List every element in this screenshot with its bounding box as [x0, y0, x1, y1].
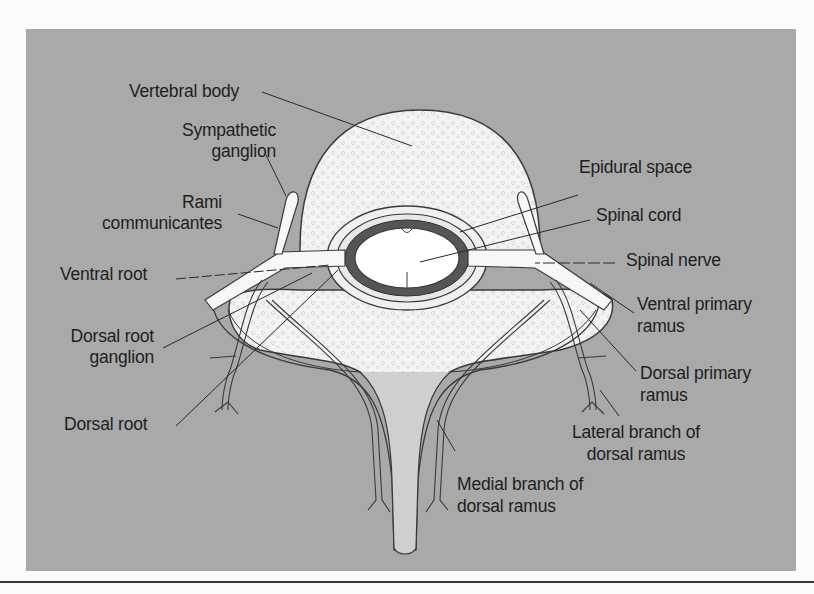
label-vertebral-body: Vertebral body	[129, 81, 239, 102]
label-medial-branch-line2: dorsal ramus	[457, 496, 556, 517]
label-sympathetic-ganglion-line1: Sympathetic	[136, 120, 276, 141]
label-ventral-primary-ramus-line2: ramus	[637, 316, 685, 337]
label-dorsal-primary-ramus-line1: Dorsal primary	[640, 363, 751, 384]
spinal-canal	[327, 206, 487, 310]
label-drg-line1: Dorsal root	[40, 326, 154, 347]
label-lateral-branch-line1: Lateral branch of	[548, 422, 724, 443]
label-drg-line2: ganglion	[40, 347, 154, 368]
label-epidural-space: Epidural space	[579, 157, 692, 178]
label-ventral-primary-ramus-line1: Ventral primary	[637, 294, 752, 315]
label-spinal-nerve: Spinal nerve	[626, 250, 721, 271]
label-medial-branch-line1: Medial branch of	[457, 474, 583, 495]
label-sympathetic-ganglion-line2: ganglion	[136, 141, 276, 162]
bottom-rule	[0, 581, 814, 583]
label-rami-line2: communicantes	[60, 213, 222, 234]
label-dorsal-root: Dorsal root	[64, 414, 147, 435]
label-ventral-root: Ventral root	[60, 264, 147, 285]
label-spinal-cord: Spinal cord	[596, 205, 681, 226]
label-rami-line1: Rami	[60, 192, 222, 213]
label-lateral-branch-line2: dorsal ramus	[548, 444, 724, 465]
label-dorsal-primary-ramus-line2: ramus	[640, 385, 688, 406]
